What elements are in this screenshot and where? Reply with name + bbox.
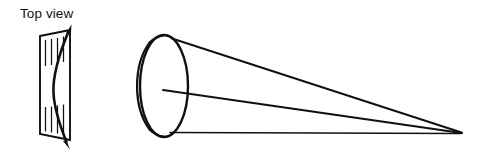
cone-diagram <box>137 35 463 137</box>
diagram-canvas: Top view <box>0 0 481 152</box>
lower-ray <box>170 133 462 134</box>
apex-point <box>461 132 463 134</box>
top-view-inset <box>40 25 72 150</box>
hatched-panel-outline <box>40 30 70 140</box>
top-view-label: Top view <box>20 6 73 21</box>
center-ray <box>163 90 462 133</box>
technical-diagram: Top view <box>0 0 481 152</box>
upper-ray <box>172 39 462 133</box>
disc-front-face <box>140 35 188 137</box>
